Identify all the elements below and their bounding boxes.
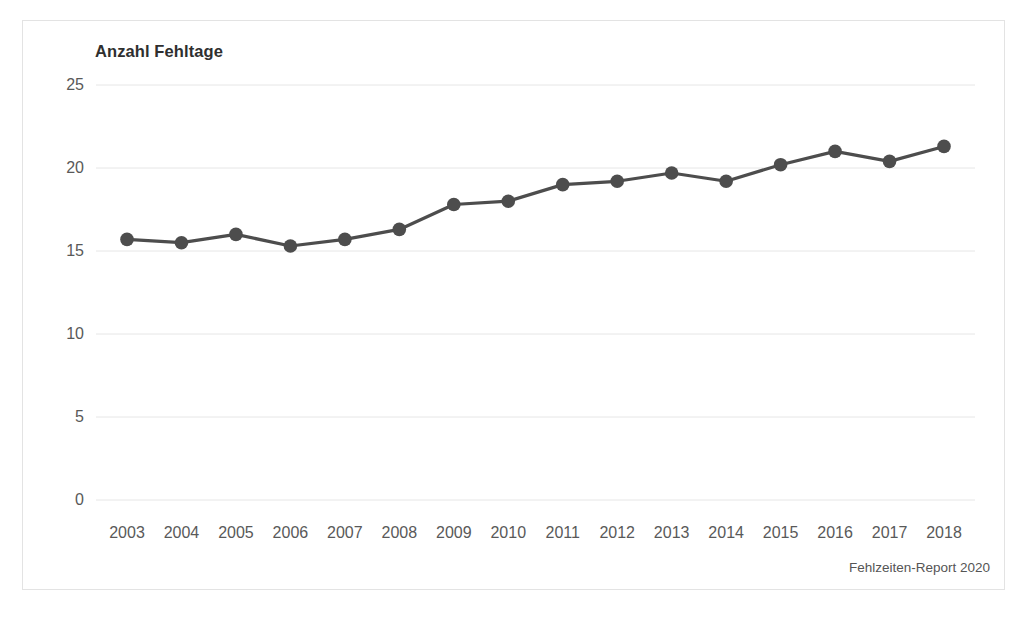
x-tick-label-2008: 2008 <box>369 524 429 542</box>
x-tick-label-2011: 2011 <box>533 524 593 542</box>
y-tick-label-5: 5 <box>38 408 84 426</box>
x-tick-label-2015: 2015 <box>751 524 811 542</box>
x-tick-label-2004: 2004 <box>151 524 211 542</box>
x-tick-label-2006: 2006 <box>260 524 320 542</box>
x-tick-label-2014: 2014 <box>696 524 756 542</box>
x-tick-label-2005: 2005 <box>206 524 266 542</box>
y-tick-label-25: 25 <box>38 76 84 94</box>
chart-title: Anzahl Fehltage <box>95 42 223 61</box>
x-tick-label-2013: 2013 <box>642 524 702 542</box>
x-tick-label-2018: 2018 <box>914 524 974 542</box>
chart-figure: Anzahl Fehltage 0510152025 2003200420052… <box>0 0 1028 622</box>
x-tick-label-2009: 2009 <box>424 524 484 542</box>
y-tick-label-15: 15 <box>38 242 84 260</box>
y-tick-label-20: 20 <box>38 159 84 177</box>
y-tick-label-0: 0 <box>38 491 84 509</box>
source-note: Fehlzeiten-Report 2020 <box>849 560 990 575</box>
y-tick-label-10: 10 <box>38 325 84 343</box>
x-tick-label-2016: 2016 <box>805 524 865 542</box>
x-tick-label-2007: 2007 <box>315 524 375 542</box>
x-tick-label-2003: 2003 <box>97 524 157 542</box>
x-tick-label-2017: 2017 <box>860 524 920 542</box>
x-tick-label-2012: 2012 <box>587 524 647 542</box>
x-tick-label-2010: 2010 <box>478 524 538 542</box>
chart-frame <box>22 20 1005 590</box>
